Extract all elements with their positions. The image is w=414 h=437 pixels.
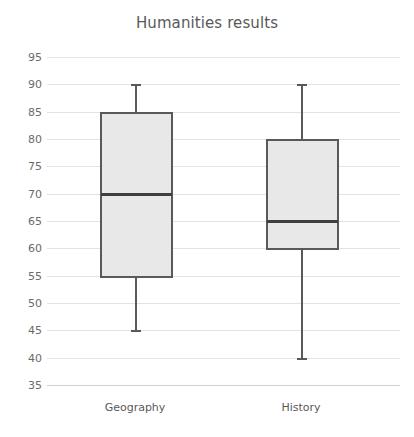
x-tick-label: Geography <box>105 401 166 414</box>
x-tick-label: History <box>281 401 321 414</box>
y-tick-label: 95 <box>28 51 42 64</box>
y-tick-label: 70 <box>28 188 42 201</box>
y-tick-label: 60 <box>28 242 42 255</box>
y-tick-label: 85 <box>28 106 42 119</box>
y-tick-label: 90 <box>28 78 42 91</box>
box-plot-geography <box>101 85 172 331</box>
y-tick-label: 55 <box>28 270 42 283</box>
y-tick-label: 80 <box>28 133 42 146</box>
y-axis-tick-labels: 95908580757065605550454035 <box>28 51 42 392</box>
y-tick-label: 45 <box>28 324 42 337</box>
y-tick-label: 40 <box>28 352 42 365</box>
y-tick-label: 35 <box>28 379 42 392</box>
x-axis-tick-labels: GeographyHistory <box>105 401 321 414</box>
plot-area: 95908580757065605550454035 GeographyHist… <box>0 0 414 437</box>
box-iqr-rect <box>267 140 338 249</box>
y-tick-label: 75 <box>28 160 42 173</box>
y-tick-label: 50 <box>28 297 42 310</box>
box-plot-history <box>267 85 338 359</box>
y-tick-label: 65 <box>28 215 42 228</box>
box-plot-chart: Humanities results 959085807570656055504… <box>0 0 414 437</box>
